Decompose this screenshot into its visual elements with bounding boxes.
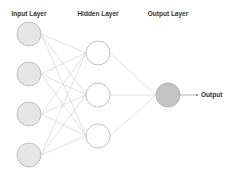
- edge: [41, 136, 86, 155]
- edge: [110, 53, 156, 95]
- neural-network-diagram: [0, 0, 233, 174]
- edge: [41, 34, 86, 95]
- input-node: [17, 62, 41, 86]
- hidden-node: [86, 124, 110, 148]
- input-node: [17, 143, 41, 167]
- edge: [110, 95, 156, 136]
- input-node: [17, 22, 41, 46]
- hidden-layer-label: Hidden Layer: [77, 10, 118, 17]
- input-node: [17, 102, 41, 126]
- output-layer-label: Output Layer: [148, 10, 188, 17]
- output-arrow-label: Output: [201, 91, 222, 98]
- edge: [41, 53, 86, 74]
- hidden-node: [86, 41, 110, 65]
- edge: [41, 34, 86, 136]
- output-node: [156, 83, 180, 107]
- input-layer-label: Input Layer: [11, 10, 46, 17]
- edge: [41, 74, 86, 95]
- hidden-node: [86, 83, 110, 107]
